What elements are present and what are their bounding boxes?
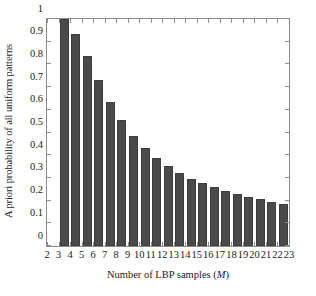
x-axis-title-symbol: M: [217, 269, 226, 280]
y-tick-mark: [47, 177, 51, 178]
x-axis-title: Number of LBP samples (M): [46, 268, 290, 281]
x-tick-mark: [266, 19, 267, 23]
y-tick-mark: [47, 154, 51, 155]
y-tick-mark: [47, 41, 51, 42]
y-tick-label: 1: [38, 3, 47, 14]
x-tick-label: 19: [238, 246, 249, 260]
x-tick-mark: [139, 19, 140, 23]
x-tick-label: 7: [102, 246, 107, 260]
x-tick-mark: [277, 19, 278, 23]
bar-slot: [278, 19, 290, 246]
y-tick-mark: [285, 222, 289, 223]
bar-slot: [151, 19, 163, 246]
x-tick-label: 18: [226, 246, 237, 260]
bar: [256, 199, 265, 246]
bar: [267, 202, 276, 246]
bar: [279, 204, 288, 246]
y-tick-mark: [285, 86, 289, 87]
x-tick-mark: [59, 19, 60, 23]
y-tick-mark: [47, 86, 51, 87]
bar-slot: [255, 19, 267, 246]
x-tick-label: 12: [157, 246, 168, 260]
bar: [198, 183, 207, 246]
x-tick-mark: [208, 19, 209, 23]
bar: [187, 179, 196, 246]
x-tick-label: 6: [90, 246, 95, 260]
bar: [94, 80, 103, 246]
bar: [244, 197, 253, 246]
bar: [106, 102, 115, 246]
bar-slot: [243, 19, 255, 246]
x-tick-mark: [220, 19, 221, 23]
bar: [117, 120, 126, 246]
bar-slot: [47, 19, 59, 246]
x-tick-label: 9: [125, 246, 130, 260]
y-tick-label: 0.7: [30, 71, 47, 82]
bar-slot: [208, 19, 220, 246]
y-tick-label: 0.5: [30, 117, 47, 128]
y-tick-label: 0.4: [30, 139, 47, 150]
bar: [152, 158, 161, 246]
x-tick-label: 14: [180, 246, 191, 260]
x-tick-label: 4: [67, 246, 72, 260]
bar: [210, 187, 219, 246]
y-tick-label: 0.2: [30, 185, 47, 196]
x-tick-mark: [174, 19, 175, 23]
y-tick-mark: [285, 63, 289, 64]
x-tick-mark: [70, 19, 71, 23]
x-tick-mark: [82, 19, 83, 23]
bar-slot: [70, 19, 82, 246]
x-tick-label: 17: [215, 246, 226, 260]
bar-slot: [105, 19, 117, 246]
bar-slot: [59, 19, 71, 246]
y-tick-mark: [285, 41, 289, 42]
bar-slot: [174, 19, 186, 246]
bar-slot: [232, 19, 244, 246]
x-tick-mark: [116, 19, 117, 23]
x-tick-label: 23: [284, 246, 295, 260]
x-tick-mark: [243, 19, 244, 23]
bar-slot: [266, 19, 278, 246]
bar: [175, 173, 184, 246]
y-tick-label: 0.1: [30, 208, 47, 219]
x-axis-title-text: Number of LBP samples: [107, 269, 211, 280]
bar-slot: [93, 19, 105, 246]
x-tick-mark: [289, 19, 290, 23]
x-tick-label: 3: [56, 246, 61, 260]
figure: A priori probability of all uniform patt…: [0, 0, 316, 296]
bar: [71, 34, 80, 246]
y-tick-label: 0.8: [30, 49, 47, 60]
x-axis-title-paren-close: ): [226, 269, 230, 280]
bar-slot: [220, 19, 232, 246]
bar-slot: [82, 19, 94, 246]
bar-slot: [139, 19, 151, 246]
bar: [233, 194, 242, 246]
bar: [60, 19, 69, 246]
x-tick-label: 22: [272, 246, 283, 260]
x-tick-mark: [105, 19, 106, 23]
x-tick-label: 21: [261, 246, 272, 260]
x-tick-label: 16: [203, 246, 214, 260]
x-tick-mark: [128, 19, 129, 23]
y-tick-mark: [47, 222, 51, 223]
x-tick-mark: [197, 19, 198, 23]
bar: [83, 56, 92, 246]
bar-slot: [128, 19, 140, 246]
y-tick-label: 0.9: [30, 26, 47, 37]
x-tick-mark: [231, 19, 232, 23]
bar: [164, 166, 173, 246]
y-tick-mark: [285, 200, 289, 201]
y-tick-label: 0: [38, 230, 47, 241]
x-tick-label: 20: [249, 246, 260, 260]
y-axis-title: A priori probability of all uniform patt…: [2, 15, 16, 247]
bar-slot: [197, 19, 209, 246]
y-tick-mark: [47, 63, 51, 64]
bar: [129, 136, 138, 246]
x-tick-mark: [185, 19, 186, 23]
bar: [221, 191, 230, 246]
plot-area: 00.10.20.30.40.50.60.70.80.91 2345678910…: [46, 18, 290, 247]
x-tick-label: 5: [79, 246, 84, 260]
y-tick-mark: [285, 177, 289, 178]
x-tick-label: 10: [134, 246, 145, 260]
x-tick-label: 13: [169, 246, 180, 260]
